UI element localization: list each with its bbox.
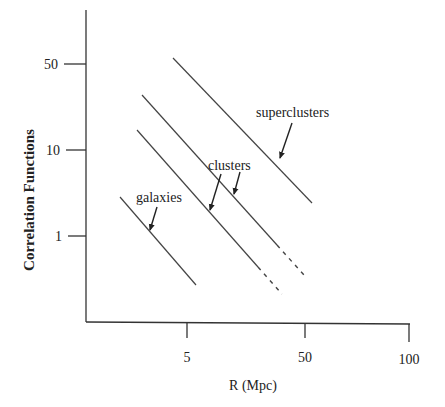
- y-tick-1: 1: [55, 229, 86, 244]
- y-axis-label: Correlation Functions: [21, 129, 37, 271]
- clusters-lower-dashed-extension: [258, 267, 282, 294]
- y-tick-10: 10: [46, 143, 86, 158]
- y-tick-50: 50: [44, 57, 86, 72]
- galaxies-line: [120, 197, 196, 285]
- galaxies-annotation: galaxies: [136, 190, 182, 205]
- clusters-upper-dashed-extension: [277, 245, 304, 275]
- x-tick-5: 5: [184, 322, 191, 365]
- x-axis: [86, 322, 410, 324]
- x-tick-label-100: 100: [399, 352, 420, 367]
- superclusters-line: [173, 58, 312, 203]
- superclusters-arrow-icon: [280, 123, 292, 158]
- y-tick-label-1: 1: [55, 229, 62, 244]
- y-tick-label-10: 10: [46, 143, 60, 158]
- x-tick-50: 50: [298, 323, 312, 365]
- x-tick-100: 100: [399, 324, 420, 367]
- x-tick-label-5: 5: [184, 350, 191, 365]
- y-tick-label-50: 50: [44, 57, 58, 72]
- x-tick-label-50: 50: [298, 350, 312, 365]
- galaxies-arrow-icon: [150, 207, 157, 230]
- clusters-arrow-lower-icon: [210, 174, 221, 210]
- x-axis-label: R (Mpc): [229, 378, 277, 394]
- superclusters-annotation: superclusters: [256, 105, 329, 120]
- correlation-chart: 50 10 1 5 50 100 Correlation Functions R…: [0, 0, 445, 407]
- clusters-annotation: clusters: [208, 158, 251, 173]
- clusters-arrow-upper-icon: [234, 172, 240, 194]
